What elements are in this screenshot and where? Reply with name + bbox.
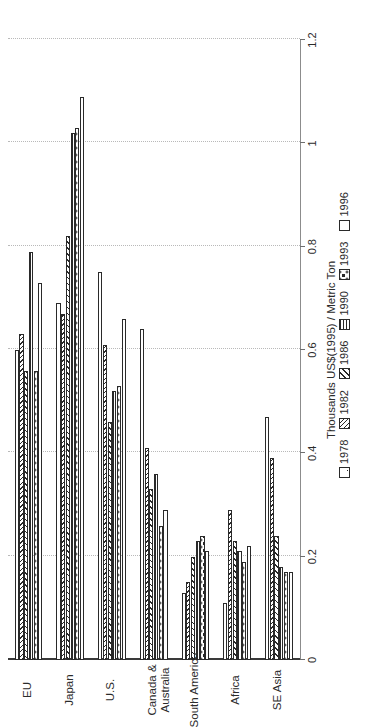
gridline (8, 245, 300, 246)
bar (19, 335, 23, 661)
legend-swatch-icon (339, 368, 350, 379)
gridline (8, 451, 300, 452)
bar (34, 371, 38, 660)
bar (233, 541, 237, 660)
legend-item[interactable]: 1993 (338, 242, 350, 280)
axis-tick-label: 0.4 (307, 446, 318, 461)
bar (270, 459, 274, 661)
bar (200, 536, 204, 660)
category-label: U.S. (104, 679, 117, 701)
bar (289, 572, 293, 660)
bar (237, 552, 241, 661)
bar (71, 133, 75, 660)
legend-item[interactable]: 1990 (338, 291, 350, 329)
bar (265, 417, 269, 660)
axis-tick (300, 142, 305, 143)
bar (145, 448, 149, 660)
axis-tick (300, 349, 305, 350)
axis-tick-label: 1.2 (307, 32, 318, 47)
bar (228, 510, 232, 660)
legend-label: 1986 (338, 341, 350, 365)
legend-swatch-icon (339, 418, 350, 429)
bar-chart-figure: 00.20.40.60.811.2 EUJapanU.S.Canada & Au… (0, 0, 378, 728)
bar (56, 304, 60, 661)
bar (15, 350, 19, 660)
category-label: Canada & Australia (146, 664, 172, 715)
bar (279, 567, 283, 660)
legend-item[interactable]: 1982 (338, 390, 350, 428)
bar (66, 236, 70, 660)
bar (274, 536, 278, 660)
axis-tick-label: 0.6 (307, 342, 318, 357)
bar (122, 319, 126, 660)
bar (242, 562, 246, 660)
gridline (8, 141, 300, 142)
axis-tick (300, 39, 305, 40)
legend-swatch-icon (339, 467, 350, 478)
gridline (8, 348, 300, 349)
bar (149, 490, 153, 661)
legend-swatch-icon (339, 319, 350, 330)
bar (103, 345, 107, 660)
axis-tick-label: 1 (307, 140, 318, 146)
bar (154, 474, 158, 660)
axis-tick (300, 556, 305, 557)
bar (98, 273, 102, 661)
bar (61, 314, 65, 660)
category-label: Africa (229, 675, 242, 704)
axis-tick-label: 0.2 (307, 549, 318, 564)
bar (29, 252, 33, 660)
legend-label: 1982 (338, 390, 350, 414)
legend-swatch-icon (339, 220, 350, 231)
bar (247, 546, 251, 660)
axis-tick (300, 452, 305, 453)
bar (117, 386, 121, 660)
bar (38, 283, 42, 660)
category-label: EU (21, 682, 34, 698)
gridline (8, 38, 300, 39)
legend-label: 1993 (338, 242, 350, 266)
legend-swatch-icon (339, 269, 350, 280)
chart-canvas: 00.20.40.60.811.2 EUJapanU.S.Canada & Au… (0, 0, 378, 728)
bar (80, 97, 84, 660)
category-label: SE Asia (271, 670, 284, 710)
axis-tick-label: 0 (307, 657, 318, 663)
bar (159, 526, 163, 660)
legend-label: 1978 (338, 440, 350, 464)
axis-tick-label: 0.8 (307, 239, 318, 254)
value-axis-line (300, 40, 301, 660)
category-label: Japan (63, 674, 76, 705)
bar (182, 593, 186, 660)
bar (186, 583, 190, 661)
legend-item[interactable]: 1978 (338, 440, 350, 478)
category-label: South America (188, 653, 201, 728)
bar (112, 391, 116, 660)
bar (191, 557, 195, 660)
axis-tick (300, 246, 305, 247)
chart-legend: 197819821986199019931996 (338, 192, 350, 478)
legend-item[interactable]: 1996 (338, 192, 350, 230)
legend-label: 1996 (338, 192, 350, 216)
value-axis-title: Thousands US$(1995) / Metric Ton (325, 40, 337, 660)
bar (75, 128, 79, 660)
bar (223, 603, 227, 660)
legend-label: 1990 (338, 291, 350, 315)
axis-tick (300, 659, 305, 660)
bar (108, 422, 112, 660)
bar (205, 552, 209, 661)
bar (163, 510, 167, 660)
bar (284, 572, 288, 660)
bar (140, 329, 144, 660)
bar (196, 541, 200, 660)
bar (24, 371, 28, 660)
legend-item[interactable]: 1986 (338, 341, 350, 379)
